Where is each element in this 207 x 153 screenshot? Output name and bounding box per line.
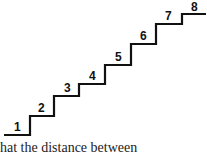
staircase-diagram: 1 2 3 4 5 6 7 8 (0, 0, 207, 153)
step-label-3: 3 (64, 81, 71, 95)
step-label-6: 6 (140, 29, 147, 43)
step-label-1: 1 (14, 120, 21, 134)
step-label-4: 4 (89, 69, 96, 83)
step-label-5: 5 (115, 50, 122, 64)
staircase-line (4, 14, 206, 135)
step-label-7: 7 (165, 9, 172, 23)
step-label-8: 8 (191, 0, 198, 14)
step-label-2: 2 (38, 101, 45, 115)
caption-text: hat the distance between (0, 141, 137, 153)
